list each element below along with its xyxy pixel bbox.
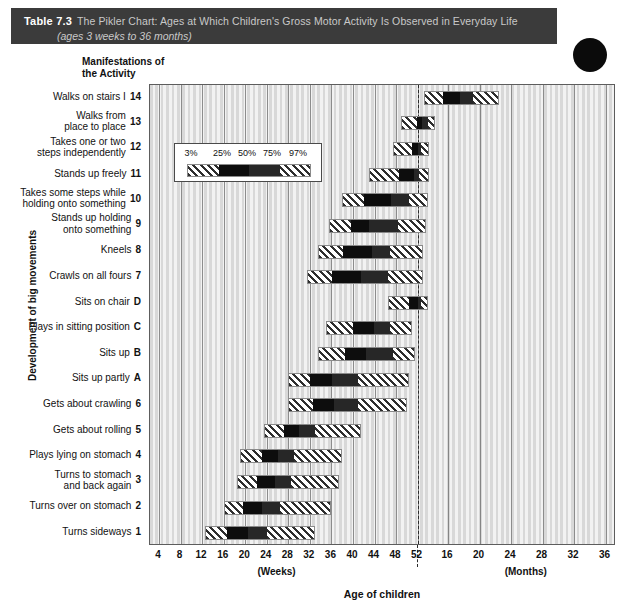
bar-row-B — [318, 347, 415, 361]
row-code-9: 9 — [131, 218, 141, 230]
row-label-7: Crawls on all fours7 — [0, 269, 141, 281]
bar-row-11 — [369, 168, 429, 182]
row-code-8: 8 — [131, 244, 141, 256]
row-code-7: 7 — [131, 270, 141, 282]
row-label-11: Stands up freely11 — [0, 167, 141, 179]
row-label-line-1: Turns to stomach — [55, 469, 132, 481]
bar-segment-p50-p75 — [299, 425, 315, 437]
row-label-line-1: Walks from — [64, 110, 126, 122]
bar-segment-p75-p97 — [421, 143, 428, 155]
bar-segment-p50-p75 — [374, 322, 390, 334]
x-tick-week-40: 40 — [346, 549, 357, 560]
bar-segment-p3-p25 — [238, 476, 256, 488]
row-label-line-1: Plays lying on stomach — [29, 449, 131, 461]
row-label-line-2: holding onto something — [20, 198, 126, 210]
row-label-text: Plays in sitting position — [29, 321, 130, 333]
row-label-B: Sits upB — [0, 346, 141, 358]
row-code-5: 5 — [131, 424, 141, 436]
x-tick-month-36: 36 — [599, 549, 610, 560]
bar-segment-p75-p97 — [390, 246, 422, 258]
bar-segment-p25-p50 — [227, 527, 248, 539]
bar-segment-p75-p97 — [428, 117, 433, 129]
x-tick-week-52: 52 — [411, 549, 422, 560]
bar-segment-p25-p50 — [353, 322, 374, 334]
row-code-2: 2 — [131, 500, 141, 512]
grid-line-month-20 — [480, 85, 481, 544]
bar-segment-p3-p25 — [389, 297, 409, 309]
bar-segment-p50-p75 — [460, 92, 473, 104]
bar-segment-p50-p75 — [391, 194, 409, 206]
row-label-text: Walks on stairs I — [53, 91, 126, 103]
bar-row-7 — [307, 270, 423, 284]
row-label-line-2: onto something — [51, 224, 131, 236]
legend-seg-75-97 — [280, 165, 311, 176]
page-marker-dot-top — [573, 38, 607, 72]
row-code-4: 4 — [131, 449, 141, 461]
row-label-text: Turns over on stomach — [30, 500, 132, 512]
row-code-14: 14 — [126, 91, 141, 103]
x-tick-week-28: 28 — [282, 549, 293, 560]
bar-segment-p50-p75 — [332, 374, 358, 386]
row-label-line-2: steps independently — [37, 147, 126, 159]
x-axis-unit-weeks: (Weeks) — [257, 566, 295, 577]
bar-segment-p25-p50 — [310, 374, 331, 386]
row-label-line-1: Gets about crawling — [43, 398, 131, 410]
legend-label-75pct: 75% — [263, 147, 281, 159]
bar-segment-p3-p25 — [343, 194, 364, 206]
row-label-6: Gets about crawling6 — [0, 397, 141, 409]
bar-segment-p75-p97 — [358, 399, 406, 411]
bar-segment-p3-p25 — [319, 246, 343, 258]
bar-segment-p75-p97 — [421, 297, 427, 309]
row-label-text: Sits up — [99, 347, 130, 359]
bar-segment-p75-p97 — [294, 450, 342, 462]
row-label-text: Stands up freely — [54, 168, 126, 180]
row-label-14: Walks on stairs I14 — [0, 90, 141, 102]
row-code-12: 12 — [126, 141, 141, 153]
row-label-13: Walks fromplace to place13 — [0, 110, 141, 133]
row-label-9: Stands up holdingonto something9 — [0, 212, 141, 235]
x-tick-week-24: 24 — [260, 549, 271, 560]
bar-segment-p3-p25 — [425, 92, 443, 104]
bar-segment-p3-p25 — [330, 220, 351, 232]
bar-segment-p50-p75 — [278, 450, 294, 462]
bar-segment-p25-p50 — [351, 220, 369, 232]
bar-row-14 — [424, 91, 499, 105]
row-code-11: 11 — [126, 168, 141, 180]
row-label-text: Sits on chair — [75, 296, 130, 308]
x-tick-week-12: 12 — [196, 549, 207, 560]
bar-segment-p3-p25 — [319, 348, 345, 360]
row-code-10: 10 — [126, 193, 141, 205]
bar-segment-p3-p25 — [327, 322, 353, 334]
bar-segment-p25-p50 — [257, 476, 275, 488]
bar-segment-p25-p50 — [313, 399, 334, 411]
bar-segment-p75-p97 — [473, 92, 498, 104]
row-label-line-2: and back again — [55, 480, 132, 492]
x-axis-unit-months: (Months) — [505, 566, 547, 577]
row-label-text: Stands up holdingonto something — [51, 212, 131, 235]
bar-segment-p25-p50 — [345, 348, 366, 360]
bar-segment-p75-p97 — [409, 194, 427, 206]
legend-sample-bar — [187, 164, 311, 177]
bar-segment-p25-p50 — [343, 246, 372, 258]
legend-percent-labels: 3%25%50%75%97% — [175, 147, 321, 162]
row-label-A: Sits up partlyA — [0, 372, 141, 384]
row-label-D: Sits on chairD — [0, 295, 141, 307]
bar-segment-p50-p75 — [372, 246, 391, 258]
row-label-4: Plays lying on stomach4 — [0, 449, 141, 461]
bar-segment-p3-p25 — [289, 374, 310, 386]
row-label-line-1: Crawls on all fours — [49, 270, 131, 282]
bar-segment-p75-p97 — [388, 271, 422, 283]
x-tick-month-16: 16 — [441, 549, 452, 560]
row-label-line-1: Plays in sitting position — [29, 321, 130, 333]
x-tick-week-8: 8 — [177, 549, 183, 560]
row-label-3: Turns to stomachand back again3 — [0, 469, 141, 492]
row-label-line-1: Sits on chair — [75, 296, 130, 308]
bar-segment-p75-p97 — [280, 502, 330, 514]
bar-segment-p75-p97 — [419, 169, 429, 181]
row-code-6: 6 — [131, 398, 141, 410]
bar-segment-p75-p97 — [358, 374, 408, 386]
row-label-line-1: Turns sideways — [62, 526, 131, 538]
row-label-line-1: Stands up holding — [51, 212, 131, 224]
bar-row-8 — [318, 245, 423, 259]
bar-segment-p3-p25 — [394, 143, 412, 155]
